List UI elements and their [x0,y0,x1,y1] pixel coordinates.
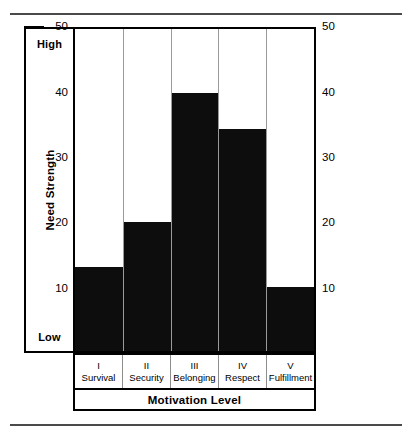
y-tick-right-50: 50 [322,21,335,33]
chart-figure: High Need Strength Low 50 40 30 20 10 50… [0,0,412,433]
category-roman-4: IV [238,360,247,372]
y-tick-left-40: 40 [55,87,68,99]
y-tick-left-30: 30 [55,152,68,164]
bar-2 [123,222,171,351]
category-roman-3: III [191,360,199,372]
x-axis-category-cell-5: VFulfillment [267,355,314,388]
bar-4 [218,129,266,351]
y-tick-left-50: 50 [55,21,68,33]
y-tick-right-30: 30 [322,152,335,164]
x-axis-category-cell-1: ISurvival [75,355,123,388]
x-axis-category-cell-3: IIIBelonging [171,355,219,388]
bars-container [75,29,314,351]
category-name-1: Survival [82,372,116,384]
y-tick-right-40: 40 [322,87,335,99]
plot-area [73,27,316,353]
x-axis-category-table: ISurvivalIISecurityIIIBelongingIVRespect… [73,353,316,411]
x-axis-category-cell-2: IISecurity [123,355,171,388]
category-name-3: Belonging [173,372,215,384]
column-separator-4 [266,29,267,351]
y-axis-right-ticks: 50 40 30 20 10 [322,0,352,433]
column-separator-1 [123,29,124,351]
category-roman-1: I [97,360,100,372]
category-name-2: Security [129,372,163,384]
column-separator-3 [218,29,219,351]
x-axis-category-cell-4: IVRespect [219,355,267,388]
category-roman-2: II [144,360,149,372]
y-tick-left-20: 20 [55,217,68,229]
y-tick-right-20: 20 [322,217,335,229]
bar-3 [171,93,219,351]
x-axis-category-row: ISurvivalIISecurityIIIBelongingIVRespect… [75,355,314,388]
y-tick-right-10: 10 [322,283,335,295]
bar-1 [75,267,123,351]
category-name-4: Respect [225,372,260,384]
column-separator-2 [171,29,172,351]
category-roman-5: V [287,360,293,372]
x-axis-title: Motivation Level [75,388,314,409]
category-name-5: Fulfillment [269,372,312,384]
y-axis-left-ticks: 50 40 30 20 10 [40,0,68,433]
bar-5 [266,287,314,351]
y-tick-left-10: 10 [55,283,68,295]
